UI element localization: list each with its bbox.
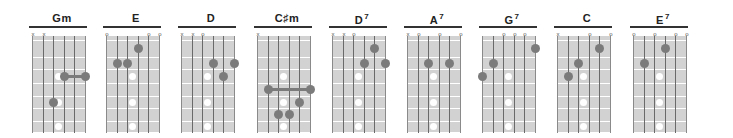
fret-line <box>181 132 235 133</box>
fret-line <box>633 57 687 58</box>
fret-inlay-marker <box>355 123 362 130</box>
finger-dot <box>295 98 304 107</box>
chord-name: E7 <box>628 12 698 26</box>
string-line <box>589 36 590 133</box>
finger-dot <box>113 59 122 68</box>
finger-dot <box>360 59 369 68</box>
finger-dot <box>661 44 670 53</box>
finger-dot <box>49 98 58 107</box>
finger-dot <box>219 72 228 81</box>
fret-inlay-marker <box>280 123 287 130</box>
chord-name-root: D <box>207 12 215 24</box>
string-line <box>407 36 408 133</box>
fret-line <box>633 132 687 133</box>
fret-line <box>557 96 611 97</box>
fret-line <box>557 108 611 109</box>
chord-diagram: A7xooo <box>402 0 472 138</box>
fret-line <box>181 96 235 97</box>
chord-name-root: D <box>355 14 363 26</box>
fret-line <box>332 121 386 122</box>
finger-dot <box>445 59 454 68</box>
fret-line <box>633 69 687 70</box>
string-line <box>428 36 429 133</box>
fretboard <box>257 36 311 133</box>
fret-line <box>106 108 160 109</box>
fret-line <box>557 121 611 122</box>
chord-name-extension: 7 <box>665 12 670 21</box>
fret-line <box>106 83 160 84</box>
string-line <box>64 36 65 133</box>
fret-line <box>332 57 386 58</box>
fretboard <box>106 36 160 133</box>
fret-line <box>407 57 461 58</box>
chord-title-rule <box>254 26 312 28</box>
fret-line <box>557 69 611 70</box>
string-line <box>234 36 235 133</box>
chord-diagram: Dxxo <box>176 0 246 138</box>
fret-line <box>633 121 687 122</box>
string-line <box>460 36 461 133</box>
fret-inlay-marker <box>355 73 362 80</box>
fret-line <box>257 121 311 122</box>
chord-name-extension: 7 <box>515 12 520 21</box>
fret-line <box>106 96 160 97</box>
finger-dot <box>285 110 294 119</box>
string-line <box>43 36 44 133</box>
fret-line <box>407 69 461 70</box>
fret-inlay-marker <box>430 73 437 80</box>
string-line <box>181 36 182 133</box>
fret-line <box>257 69 311 70</box>
fret-line <box>32 121 86 122</box>
fret-inlay-marker <box>129 73 136 80</box>
string-line <box>106 36 107 133</box>
chord-name: D <box>176 12 246 24</box>
fret-line <box>482 96 536 97</box>
string-line <box>343 36 344 133</box>
fret-inlay-marker <box>204 99 211 106</box>
finger-dot <box>478 72 487 81</box>
string-line <box>482 36 483 133</box>
string-line <box>202 36 203 133</box>
fret-line <box>181 108 235 109</box>
chord-diagram: Gmxx <box>27 0 97 138</box>
fret-line <box>633 83 687 84</box>
fret-line <box>106 57 160 58</box>
string-line <box>117 36 118 133</box>
string-line <box>159 36 160 133</box>
fret-line <box>557 132 611 133</box>
fret-line <box>557 83 611 84</box>
finger-dot <box>489 59 498 68</box>
fret-line <box>482 121 536 122</box>
fret-line <box>257 57 311 58</box>
nut-line <box>106 40 160 41</box>
fret-line <box>332 108 386 109</box>
finger-dot <box>209 59 218 68</box>
chord-title-rule <box>479 26 537 28</box>
chord-name-root: E <box>656 14 664 26</box>
fret-inlay-marker <box>656 99 663 106</box>
fret-line <box>181 121 235 122</box>
fret-inlay-marker <box>430 99 437 106</box>
fret-line <box>482 69 536 70</box>
finger-dot <box>134 44 143 53</box>
fret-inlay-marker <box>656 123 663 130</box>
fretboard <box>181 36 235 133</box>
chord-name-root: C♯m <box>275 12 300 24</box>
fretboard <box>407 36 461 133</box>
fret-line <box>32 96 86 97</box>
string-line <box>418 36 419 133</box>
fret-line <box>633 96 687 97</box>
finger-dot <box>123 59 132 68</box>
chord-diagram: G7ooo <box>477 0 547 138</box>
chord-title-rule <box>29 26 87 28</box>
fret-line <box>332 96 386 97</box>
fret-inlay-marker <box>580 123 587 130</box>
fret-line <box>407 83 461 84</box>
fret-line <box>32 57 86 58</box>
string-line <box>578 36 579 133</box>
fret-line <box>482 83 536 84</box>
string-line <box>53 36 54 133</box>
string-line <box>353 36 354 133</box>
string-line <box>332 36 333 133</box>
fret-line <box>106 121 160 122</box>
